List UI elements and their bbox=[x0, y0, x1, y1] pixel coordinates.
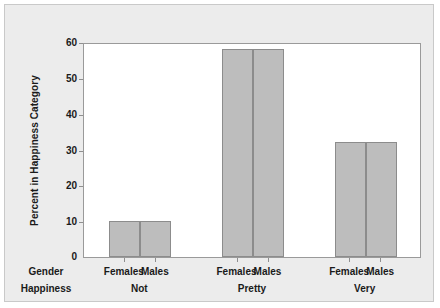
x-axis-tick-mark bbox=[268, 258, 269, 262]
plot-area bbox=[84, 44, 420, 257]
y-axis-tick-label: 10 bbox=[66, 216, 77, 228]
y-axis-tick-label: 50 bbox=[66, 73, 77, 85]
x-axis-gender-label: Males bbox=[125, 263, 185, 280]
bar bbox=[140, 221, 171, 257]
bar-group bbox=[335, 142, 397, 257]
x-axis-gender-label: Males bbox=[350, 263, 410, 280]
bar bbox=[366, 142, 397, 257]
x-axis-happiness-label: Not bbox=[99, 280, 179, 297]
y-axis-tick-labels: 102030405060 bbox=[53, 43, 83, 258]
chart-figure: Percent in Happiness Category 1020304050… bbox=[4, 4, 434, 302]
bar bbox=[253, 49, 284, 257]
bar bbox=[222, 49, 253, 257]
x-axis-tick-mark bbox=[349, 258, 350, 262]
x-axis-tick-mark bbox=[124, 258, 125, 262]
axis-row-title-happiness: Happiness bbox=[9, 280, 83, 297]
x-axis-happiness-label: Pretty bbox=[212, 280, 292, 297]
y-axis-tick-label: 60 bbox=[66, 37, 77, 49]
axis-row-happiness: Happiness NotPrettyVery bbox=[5, 280, 433, 297]
y-axis-tick-label: 20 bbox=[66, 180, 77, 192]
y-axis-tick-label-zero: 0 bbox=[53, 251, 77, 263]
bar bbox=[335, 142, 366, 257]
y-axis-tick-label: 30 bbox=[66, 145, 77, 157]
bar-group bbox=[222, 49, 284, 257]
bar bbox=[109, 221, 140, 257]
y-axis-title: Percent in Happiness Category bbox=[29, 43, 45, 258]
x-axis-tick-mark bbox=[380, 258, 381, 262]
x-axis-gender-label: Males bbox=[238, 263, 298, 280]
x-axis-tick-mark bbox=[237, 258, 238, 262]
x-axis-label-block: Gender FemalesMalesFemalesMalesFemalesMa… bbox=[5, 263, 433, 301]
y-axis-tick-label: 40 bbox=[66, 109, 77, 121]
bar-group bbox=[109, 221, 171, 257]
x-axis-tick-mark bbox=[155, 258, 156, 262]
axis-row-gender: Gender FemalesMalesFemalesMalesFemalesMa… bbox=[5, 263, 433, 280]
plot-frame bbox=[83, 43, 421, 258]
axis-row-title-gender: Gender bbox=[9, 263, 83, 280]
x-axis-happiness-label: Very bbox=[325, 280, 405, 297]
